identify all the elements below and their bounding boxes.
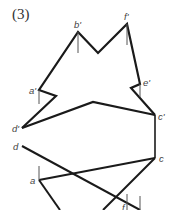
front-view-outline (22, 24, 155, 128)
label-f: f (122, 203, 125, 210)
label-f-prime: f' (124, 12, 128, 22)
d-edge (22, 146, 140, 210)
label-d-prime: d' (12, 124, 19, 134)
label-a: a (30, 176, 35, 186)
label-a-prime: a' (29, 86, 36, 96)
a-edge-down (39, 180, 60, 210)
diagram-lines (0, 0, 178, 210)
front-view-lower-edge (22, 102, 155, 128)
label-e-prime: e' (143, 78, 150, 88)
label-d: d (13, 142, 18, 152)
projection-diagram: (3) b' f' e' a' d' c' d c a f (0, 0, 178, 210)
figure-number: (3) (12, 6, 30, 23)
label-b-prime: b' (74, 20, 81, 30)
label-c: c (159, 154, 164, 164)
label-c-prime: c' (158, 112, 165, 122)
